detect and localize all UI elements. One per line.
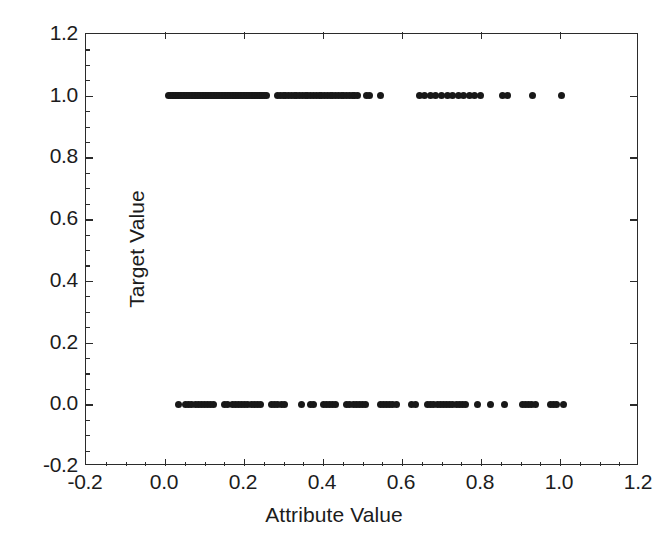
x-minor-tick: [185, 462, 186, 466]
y-tick-label: 1.0: [50, 83, 78, 107]
x-minor-tick: [224, 462, 225, 466]
x-minor-tick: [540, 462, 541, 466]
y-tick-label: 0.6: [50, 206, 78, 230]
x-tick-mark: [481, 459, 482, 466]
x-tick-mark: [560, 459, 561, 466]
x-tick-label: 0.6: [387, 470, 415, 494]
y-tick-mark-right: [630, 219, 637, 220]
x-tick-mark-top: [402, 32, 403, 39]
y-tick-label: 0.0: [50, 391, 78, 415]
x-tick-label: 1.2: [624, 470, 652, 494]
data-point: [354, 92, 361, 99]
y-minor-tick: [86, 296, 90, 297]
x-tick-mark-top: [560, 32, 561, 39]
x-tick-label: 1.0: [545, 470, 573, 494]
x-minor-tick: [264, 462, 265, 466]
x-minor-tick: [422, 462, 423, 466]
y-tick-mark-right: [630, 404, 637, 405]
y-minor-tick: [86, 250, 90, 251]
x-minor-tick: [303, 462, 304, 466]
x-tick-label: 0.4: [308, 470, 336, 494]
x-minor-tick: [442, 462, 443, 466]
plot-area: [85, 33, 638, 465]
y-tick-mark: [86, 343, 93, 344]
x-axis-title: Attribute Value: [0, 503, 668, 527]
y-tick-mark: [86, 96, 93, 97]
y-minor-tick: [86, 327, 90, 328]
x-tick-mark: [165, 459, 166, 466]
x-minor-tick: [382, 462, 383, 466]
data-point: [487, 401, 494, 408]
y-tick-mark: [86, 281, 93, 282]
data-point: [175, 401, 182, 408]
x-minor-tick: [363, 462, 364, 466]
y-minor-tick: [86, 142, 90, 143]
y-minor-tick: [86, 204, 90, 205]
y-tick-mark: [86, 404, 93, 405]
x-minor-tick: [619, 462, 620, 466]
y-minor-tick: [86, 373, 90, 374]
data-point: [310, 401, 317, 408]
x-minor-tick: [501, 462, 502, 466]
data-point: [298, 401, 305, 408]
y-minor-tick: [86, 435, 90, 436]
y-tick-mark-right: [630, 157, 637, 158]
data-point: [462, 401, 469, 408]
x-minor-tick: [600, 462, 601, 466]
data-point: [412, 401, 419, 408]
y-minor-tick: [86, 111, 90, 112]
y-tick-mark-right: [630, 281, 637, 282]
x-tick-mark-top: [323, 32, 324, 39]
y-tick-label: 0.8: [50, 144, 78, 168]
data-point: [377, 92, 384, 99]
x-minor-tick: [126, 462, 127, 466]
x-tick-label: 0.0: [150, 470, 178, 494]
y-minor-tick: [86, 65, 90, 66]
x-minor-tick: [461, 462, 462, 466]
x-minor-tick: [521, 462, 522, 466]
y-tick-label: 0.2: [50, 330, 78, 354]
x-minor-tick: [106, 462, 107, 466]
data-point: [477, 92, 484, 99]
data-point: [281, 401, 288, 408]
data-point: [553, 401, 560, 408]
x-tick-mark: [244, 459, 245, 466]
data-points-layer: [86, 34, 637, 464]
y-tick-mark: [86, 219, 93, 220]
y-minor-tick: [86, 265, 90, 266]
x-tick-mark: [323, 459, 324, 466]
x-tick-label: 0.8: [466, 470, 494, 494]
data-point: [362, 401, 369, 408]
x-tick-mark-top: [481, 32, 482, 39]
x-minor-tick: [580, 462, 581, 466]
x-minor-tick: [205, 462, 206, 466]
y-minor-tick: [86, 173, 90, 174]
x-minor-tick: [343, 462, 344, 466]
data-point: [558, 92, 565, 99]
y-tick-label: -0.2: [43, 453, 78, 477]
y-minor-tick: [86, 188, 90, 189]
data-point: [532, 401, 539, 408]
x-minor-tick: [284, 462, 285, 466]
y-minor-tick: [86, 49, 90, 50]
y-tick-mark: [86, 157, 93, 158]
y-minor-tick: [86, 358, 90, 359]
data-point: [501, 401, 508, 408]
y-minor-tick: [86, 451, 90, 452]
data-point: [332, 401, 339, 408]
data-point: [263, 92, 270, 99]
y-tick-mark-right: [630, 96, 637, 97]
data-point: [393, 401, 400, 408]
data-point: [210, 401, 217, 408]
scatter-plot-figure: -0.20.00.20.40.60.81.01.2 -0.20.00.20.40…: [0, 0, 668, 542]
y-tick-label: 1.2: [50, 21, 78, 45]
y-axis-title: Target Value: [125, 119, 149, 379]
y-tick-mark-right: [630, 343, 637, 344]
y-minor-tick: [86, 420, 90, 421]
data-point: [504, 92, 511, 99]
y-minor-tick: [86, 127, 90, 128]
y-minor-tick: [86, 80, 90, 81]
data-point: [529, 92, 536, 99]
data-point: [560, 401, 567, 408]
x-minor-tick: [145, 462, 146, 466]
